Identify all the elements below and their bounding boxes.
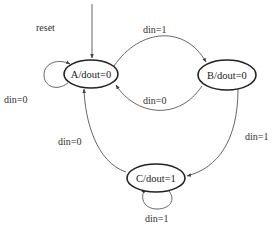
state-diagram: reset din=0 din=1 din=0 din=1 din=0 din=… [0, 0, 277, 238]
edge-b-to-a-label: din=0 [143, 95, 166, 106]
state-a: A/dout=0 [64, 60, 118, 88]
reset-label: reset [36, 22, 55, 33]
edge-b-to-c-label: din=1 [245, 131, 268, 142]
edge-c-to-a-label: din=0 [58, 136, 81, 147]
edge-b-to-c [187, 89, 238, 176]
state-b: B/dout=0 [198, 60, 256, 90]
state-c: C/dout=1 [127, 164, 185, 192]
state-a-label: A/dout=0 [71, 69, 111, 80]
edge-c-to-c-label: din=1 [145, 213, 168, 224]
edge-c-to-a [84, 89, 126, 172]
edge-a-to-a-label: din=0 [4, 94, 27, 105]
state-c-label: C/dout=1 [136, 173, 176, 184]
edge-a-to-b-label: din=1 [143, 24, 166, 35]
edge-a-to-b [114, 36, 206, 66]
state-b-label: B/dout=0 [207, 70, 247, 81]
